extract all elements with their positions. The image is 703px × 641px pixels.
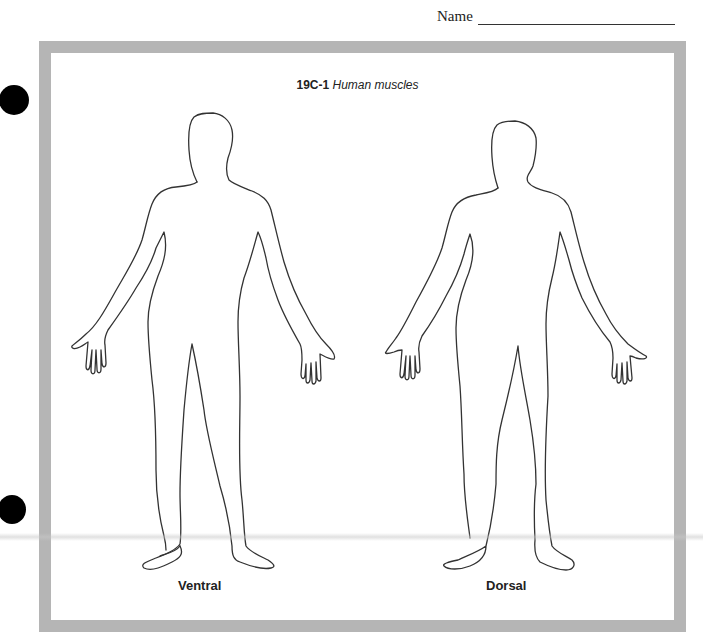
ventral-body-outline bbox=[72, 113, 335, 569]
ventral-label: Ventral bbox=[178, 578, 221, 593]
dorsal-label: Dorsal bbox=[486, 578, 526, 593]
body-figures bbox=[0, 0, 703, 641]
scan-streak bbox=[0, 533, 703, 541]
dorsal-body-outline bbox=[385, 121, 646, 570]
